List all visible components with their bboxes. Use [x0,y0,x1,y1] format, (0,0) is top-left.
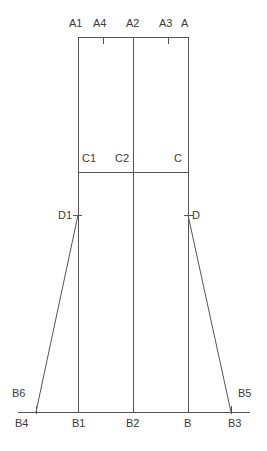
label-b2: B2 [126,418,139,429]
technical-diagram: A1 A4 A2 A3 A C1 C2 C D1 D B6 B5 B4 B1 B… [0,0,267,451]
label-b: B [184,418,191,429]
label-c2: C2 [115,153,129,164]
label-d: D [192,210,200,221]
label-a1: A1 [69,18,82,29]
label-a: A [181,18,188,29]
label-b6: B6 [12,388,25,399]
label-a2: A2 [126,18,139,29]
label-a3: A3 [159,18,172,29]
diagram-canvas [0,0,267,451]
label-c1: C1 [82,153,96,164]
label-d1: D1 [58,210,72,221]
label-b3: B3 [228,418,241,429]
label-b4: B4 [15,418,28,429]
label-b1: B1 [72,418,85,429]
label-b5: B5 [238,388,251,399]
label-c: C [174,153,182,164]
left-diagonal-line [36,215,78,412]
label-a4: A4 [93,18,106,29]
right-diagonal-line [188,215,231,412]
